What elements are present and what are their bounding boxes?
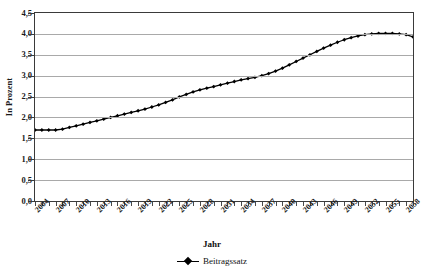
grid-line xyxy=(35,159,413,160)
legend-marker-icon xyxy=(177,257,199,266)
data-point-marker xyxy=(67,126,71,130)
data-point-marker xyxy=(219,83,223,87)
data-point-marker xyxy=(54,128,58,132)
data-point-marker xyxy=(336,40,340,44)
data-point-marker xyxy=(212,85,216,89)
data-point-marker xyxy=(226,81,230,85)
grid-line xyxy=(35,55,413,56)
data-point-marker xyxy=(136,109,140,113)
series-line xyxy=(35,33,413,130)
plot-area xyxy=(34,12,414,202)
data-point-marker xyxy=(88,121,92,125)
data-point-marker xyxy=(150,105,154,109)
data-point-marker xyxy=(35,128,37,132)
data-point-marker xyxy=(342,38,346,42)
data-point-marker xyxy=(74,124,78,128)
data-point-marker xyxy=(191,90,195,94)
data-point-marker xyxy=(129,111,133,115)
data-point-marker xyxy=(95,119,99,123)
data-point-marker xyxy=(143,107,147,111)
data-point-marker xyxy=(122,112,126,116)
data-point-marker xyxy=(81,122,85,126)
data-point-marker xyxy=(411,35,413,39)
grid-line xyxy=(35,97,413,98)
grid-line xyxy=(35,76,413,77)
data-point-marker xyxy=(171,98,175,102)
data-point-marker xyxy=(205,86,209,90)
data-point-marker xyxy=(198,88,202,92)
data-point-marker xyxy=(274,69,278,73)
data-point-marker xyxy=(239,78,243,82)
data-point-marker xyxy=(232,80,236,84)
data-point-marker xyxy=(40,128,44,132)
data-point-marker xyxy=(164,101,168,105)
data-point-marker xyxy=(349,36,353,40)
data-point-marker xyxy=(61,127,65,131)
data-point-marker xyxy=(329,43,333,47)
legend: Beitragssatz xyxy=(0,256,424,266)
data-point-marker xyxy=(246,77,250,81)
chart-container: · ·· · In Prozent 4,54,03,53,02,52,01,51… xyxy=(0,0,424,273)
grid-line xyxy=(35,117,413,118)
data-point-marker xyxy=(157,103,161,107)
data-point-marker xyxy=(47,128,51,132)
x-axis-title: Jahr xyxy=(0,239,424,249)
grid-line xyxy=(35,138,413,139)
grid-line xyxy=(35,34,413,35)
series-beitragssatz xyxy=(35,13,413,201)
legend-label: Beitragssatz xyxy=(203,256,247,266)
cut-off-title: · ·· · xyxy=(150,0,270,3)
grid-line xyxy=(35,180,413,181)
